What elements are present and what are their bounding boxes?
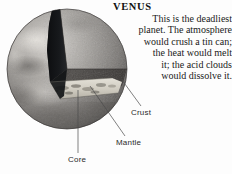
description-line: it; the acid clouds: [112, 59, 232, 70]
description-line: the heat would melt: [112, 47, 232, 58]
description-line: would crush a tin can;: [112, 36, 232, 47]
page-title: VENUS: [113, 1, 232, 13]
description-text: This is the deadliest planet. The atmosp…: [112, 13, 232, 81]
callout-label-crust: Crust: [131, 108, 151, 117]
description-line: would dissolve it.: [112, 70, 232, 81]
description-block: VENUS This is the deadliest planet. The …: [112, 1, 232, 81]
callout-label-mantle: Mantle: [116, 138, 141, 147]
description-line: This is the deadliest: [112, 13, 232, 24]
venus-diagram-page: VENUS This is the deadliest planet. The …: [0, 0, 232, 174]
callout-label-core: Core: [68, 155, 86, 164]
crust-leader-line: [122, 80, 141, 106]
description-line: planet. The atmosphere: [112, 24, 232, 35]
